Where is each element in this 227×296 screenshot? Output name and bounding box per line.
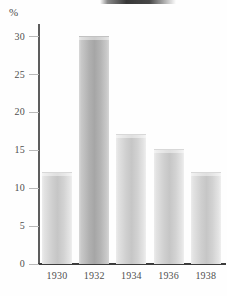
bar-top-highlight bbox=[79, 37, 109, 40]
bar bbox=[116, 134, 146, 264]
x-axis-tick-label: 1936 bbox=[150, 270, 188, 281]
bar bbox=[42, 172, 72, 264]
bar bbox=[154, 149, 184, 264]
bar-top-highlight bbox=[191, 173, 221, 176]
x-axis-tick-label: 1932 bbox=[75, 270, 113, 281]
x-axis-tick-label: 1938 bbox=[187, 270, 225, 281]
bars-layer bbox=[0, 0, 227, 296]
bar-chart-figure: % 051015202530 19301932193419361938 bbox=[0, 0, 227, 296]
bar-top-highlight bbox=[154, 150, 184, 153]
bar-top-highlight bbox=[116, 135, 146, 138]
x-axis-tick-label: 1934 bbox=[112, 270, 150, 281]
bar bbox=[79, 36, 109, 264]
bar bbox=[191, 172, 221, 264]
x-axis-tick-label: 1930 bbox=[38, 270, 76, 281]
bar-top-highlight bbox=[42, 173, 72, 176]
